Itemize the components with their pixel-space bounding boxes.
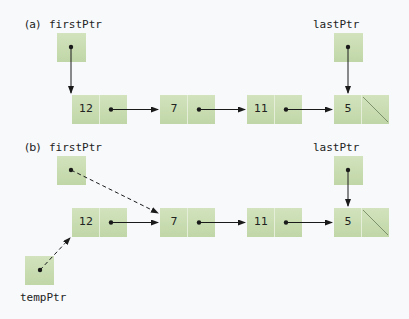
node-value: 5	[334, 215, 362, 228]
node-value: 12	[72, 102, 100, 115]
temp-ptr-label: tempPtr	[20, 291, 66, 304]
last-ptr-label-b: lastPtr	[313, 141, 359, 154]
last-ptr-label-a: lastPtr	[313, 18, 359, 31]
first-ptr-label-b: firstPtr	[49, 141, 102, 154]
panel-b-label: (b)	[25, 141, 41, 154]
linked-list-diagram	[0, 0, 409, 319]
node-value: 11	[247, 102, 275, 115]
node-value: 5	[334, 102, 362, 115]
node-value: 7	[160, 102, 188, 115]
node-value: 7	[160, 215, 188, 228]
panel-a-label: (a)	[25, 18, 40, 31]
node-value: 11	[247, 215, 275, 228]
node-value: 12	[72, 215, 100, 228]
first-ptr-label-a: firstPtr	[49, 18, 102, 31]
